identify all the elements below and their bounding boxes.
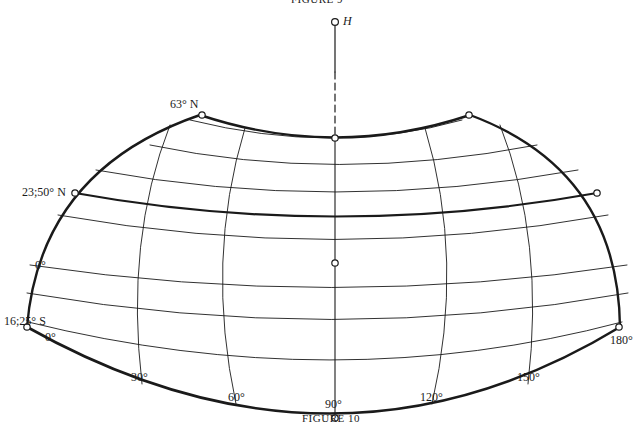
north-limit-left-marker <box>199 112 205 118</box>
figure-10-caption: FIGURE 10 <box>302 413 360 424</box>
pole-label: H <box>343 15 352 27</box>
pole-marker <box>332 19 339 26</box>
north-limit-center-marker <box>332 135 338 141</box>
projection-diagram <box>0 0 642 427</box>
longitude-label-180: 180° <box>610 334 633 346</box>
longitude-label-150: 150° <box>517 371 540 383</box>
equator-center-marker <box>332 260 338 266</box>
tropic-left-marker <box>72 190 78 196</box>
parallel-line <box>96 170 578 192</box>
north-limit-right-marker <box>466 112 472 118</box>
tropic-parallel <box>75 193 597 217</box>
latitude-label-63n: 63° N <box>170 98 198 110</box>
parallel-line <box>30 265 627 288</box>
longitude-label-0: 0° <box>45 331 56 343</box>
parallel-line <box>150 145 537 165</box>
boundary-east <box>470 115 620 327</box>
parallel-line <box>28 322 622 360</box>
south-limit-right-marker <box>616 324 622 330</box>
tropic-right-marker <box>594 190 600 196</box>
parallel-line <box>27 293 628 320</box>
boundary-west <box>27 115 200 327</box>
latitude-label-tropic: 23;50° N <box>22 186 66 198</box>
longitude-label-60: 60° <box>228 391 245 403</box>
latitude-label-16s: 16;25° S <box>4 315 46 327</box>
meridian-60 <box>222 128 245 404</box>
meridian-120 <box>425 128 447 404</box>
longitude-label-120: 120° <box>420 391 443 403</box>
latitude-label-equator: 0° <box>35 259 46 271</box>
longitude-label-30: 30° <box>131 371 148 383</box>
longitude-label-90: 90° <box>325 398 342 410</box>
